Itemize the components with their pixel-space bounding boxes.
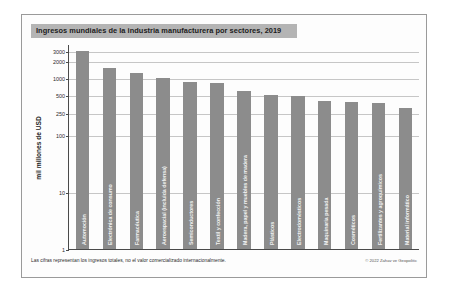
y-axis-title-label: mil millones de USD — [35, 116, 42, 179]
plot-wrapper: mil millones de USD 30002000100050025010… — [31, 45, 419, 250]
chart-footnote: Las cifras representan los ingresos tota… — [31, 258, 226, 263]
y-axis-tick-label: 1 — [62, 247, 65, 253]
y-axis-tick-label: 500 — [56, 93, 65, 99]
bar-slot: Material informático — [392, 45, 419, 249]
y-axis-tick-label: 250 — [56, 111, 65, 117]
bar-slot: Plásticos — [257, 45, 284, 249]
bar-slot: Farmacéutica — [123, 45, 150, 249]
y-axis-tick-label: 10 — [59, 190, 65, 196]
chart-card: Ingresos mundiales de la industria manuf… — [21, 14, 427, 278]
y-axis-tick-label: 2000 — [53, 59, 65, 65]
bar-slot: Electrónica de consumo — [96, 45, 123, 249]
bar-category-label: Madera, papel y muebles de madera — [242, 155, 248, 245]
bar-slot: Automoción — [69, 45, 96, 249]
y-axis-tick-label: 100 — [56, 133, 65, 139]
bar-slot: Textil y confección — [204, 45, 231, 249]
bar-slot: Fertilizantes y agroquímicos — [365, 45, 392, 249]
bar-category-label: Plásticos — [269, 222, 275, 245]
chart-title: Ingresos mundiales de la industria manuf… — [31, 24, 297, 38]
y-axis-tick-label: 3000 — [53, 49, 65, 55]
bar-category-label: Textil y confección — [215, 198, 221, 245]
bar-category-label: Automoción — [81, 214, 87, 245]
bar-slot: Aeroespacial (incluida defensa) — [150, 45, 177, 249]
bar-slot: Cosméticos — [338, 45, 365, 249]
bar-category-label: Electrodomésticos — [296, 198, 302, 245]
bar-category-label: Material informático — [404, 195, 410, 245]
bar-slot: Madera, papel y muebles de madera — [231, 45, 258, 249]
bar-slot: Semiconductores — [177, 45, 204, 249]
bar-slot: Maquinaria pesada — [311, 45, 338, 249]
bar-category-label: Fertilizantes y agroquímicos — [377, 174, 383, 245]
bar-category-label: Maquinaria pesada — [323, 198, 329, 245]
bar-series: AutomociónElectrónica de consumoFarmacéu… — [69, 45, 419, 249]
bar-category-label: Aeroespacial (incluida defensa) — [161, 166, 167, 245]
y-axis-tick-label: 1000 — [53, 76, 65, 82]
chart-copyright: © 2022 Zahav ve Geopolitic — [365, 258, 417, 263]
y-axis-title: mil millones de USD — [31, 45, 45, 250]
bar-category-label: Cosméticos — [350, 215, 356, 245]
bar-category-label: Farmacéutica — [134, 211, 140, 245]
plot-area: AutomociónElectrónica de consumoFarmacéu… — [68, 45, 419, 250]
y-axis-tick-labels: 300020001000500250100101 — [45, 45, 67, 250]
bar-category-label: Electrónica de consumo — [107, 184, 113, 245]
y-axis-tick — [66, 250, 69, 251]
bar-category-label: Semiconductores — [188, 201, 194, 245]
bar-slot: Electrodomésticos — [284, 45, 311, 249]
